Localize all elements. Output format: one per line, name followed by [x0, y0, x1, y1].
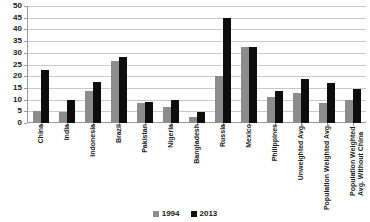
bars-layer [28, 6, 366, 123]
bar-group [262, 6, 288, 123]
y-tick-mark [24, 65, 27, 66]
bar-chart: 50454035302520151050 ChinaIndiaIndonesia… [0, 0, 370, 222]
y-tick-mark [24, 76, 27, 77]
y-tick-mark [24, 88, 27, 89]
bar-2013-china [41, 70, 49, 123]
bar-1994-population-weighted-avg [319, 103, 327, 123]
y-tick-mark [24, 18, 27, 19]
y-axis: 50454035302520151050 [0, 0, 25, 129]
bar-group [28, 6, 54, 123]
bar-2013-pakistan [145, 102, 153, 123]
bar-2013-philippines [275, 91, 283, 123]
x-axis-label-mexico: Mexico [245, 124, 253, 148]
y-tick-label: 20 [13, 72, 22, 80]
bar-1994-china [33, 111, 41, 123]
bar-2013-bangladesh [197, 112, 205, 123]
bar-group [54, 6, 80, 123]
bar-1994-russia [215, 76, 223, 123]
y-tick-label: 10 [13, 96, 22, 104]
bar-group [132, 6, 158, 123]
y-tick-mark [24, 41, 27, 42]
y-tick-label: 30 [13, 49, 22, 57]
bar-2013-nigeria [171, 100, 179, 123]
x-axis: ChinaIndiaIndonesiaBrazilPakistanNigeria… [28, 124, 366, 198]
y-tick-label: 35 [13, 37, 22, 45]
bar-group [210, 6, 236, 123]
legend-swatch-icon [153, 211, 159, 217]
bar-group [184, 6, 210, 123]
bar-1994-unweighted-avg [293, 93, 301, 123]
legend-item-2013[interactable]: 2013 [191, 210, 218, 218]
bar-1994-india [59, 112, 67, 123]
x-axis-label-population-weighted-avg: Population Weighted Avg. [323, 124, 331, 210]
bar-group [80, 6, 106, 123]
bar-group [340, 6, 366, 123]
x-axis-label-pakistan: Pakistan [141, 124, 149, 153]
bar-group [236, 6, 262, 123]
legend-swatch-icon [191, 211, 197, 217]
y-tick-label: 25 [13, 61, 22, 69]
x-axis-label-nigeria: Nigeria [167, 124, 175, 148]
y-tick-mark [24, 53, 27, 54]
x-axis-label-russia: Russia [219, 124, 227, 147]
x-axis-label-indonesia: Indonesia [89, 124, 97, 157]
bar-group [288, 6, 314, 123]
bar-1994-bangladesh [189, 117, 197, 123]
bar-1994-pakistan [137, 103, 145, 123]
bar-2013-brazil [119, 57, 127, 123]
x-axis-label-china: China [37, 124, 45, 143]
bar-2013-population-weighted-avg-without-china [353, 89, 361, 123]
bar-1994-brazil [111, 61, 119, 123]
legend-label: 2013 [200, 210, 218, 218]
bar-2013-mexico [249, 47, 257, 123]
bar-1994-mexico [241, 47, 249, 123]
x-axis-label-bangladesh: Bangladesh [193, 124, 201, 164]
bar-2013-indonesia [93, 82, 101, 123]
bar-2013-russia [223, 18, 231, 123]
y-tick-mark [24, 100, 27, 101]
y-tick-mark [24, 29, 27, 30]
x-axis-label-india: India [63, 124, 71, 140]
y-tick-label: 40 [13, 25, 22, 33]
y-tick-label: 50 [13, 2, 22, 10]
y-tick-label: 15 [13, 84, 22, 92]
bar-1994-nigeria [163, 107, 171, 123]
x-axis-label-unweighted-avg: Unweighted Avg. [297, 124, 305, 180]
bar-1994-philippines [267, 97, 275, 123]
bar-1994-population-weighted-avg-without-china [345, 100, 353, 123]
bar-group [106, 6, 132, 123]
bar-2013-population-weighted-avg [327, 83, 335, 123]
bar-2013-unweighted-avg [301, 79, 309, 123]
bar-2013-india [67, 100, 75, 123]
y-tick-label: 5 [18, 107, 22, 115]
y-tick-mark [24, 6, 27, 7]
chart-legend: 19942013 [0, 210, 370, 218]
bar-group [158, 6, 184, 123]
y-tick-mark [24, 111, 27, 112]
y-tick-label: 0 [18, 119, 22, 127]
legend-item-1994[interactable]: 1994 [153, 210, 180, 218]
y-tick-label: 45 [13, 14, 22, 22]
legend-label: 1994 [162, 210, 180, 218]
bar-group [314, 6, 340, 123]
x-axis-label-population-weighted-avg-without-china: Population Weighted Avg. Without China [349, 124, 365, 196]
x-axis-label-philippines: Philippines [271, 124, 279, 161]
y-tick-mark [24, 123, 27, 124]
x-axis-label-brazil: Brazil [115, 124, 123, 143]
bar-1994-indonesia [85, 91, 93, 123]
